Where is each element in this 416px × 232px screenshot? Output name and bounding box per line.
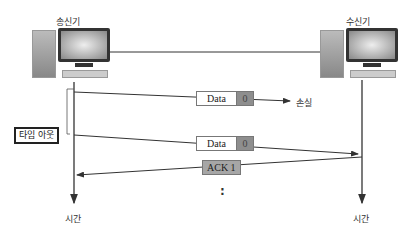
data-packet-resent: Data 0: [196, 136, 254, 151]
timeout-label: 타임 아웃: [14, 127, 59, 144]
ack-packet: ACK 1: [202, 160, 241, 175]
sender-time-label: 시간: [65, 212, 81, 225]
receiver-time-label: 시간: [353, 212, 369, 225]
lost-label: 손실: [296, 96, 312, 109]
sender-computer-icon: [30, 28, 120, 80]
receiver-computer-icon: [318, 28, 408, 80]
sender-label: 송신기: [56, 15, 80, 28]
receiver-label: 수신기: [346, 15, 370, 28]
continuation-dots: :: [220, 184, 225, 198]
data-packet-lost: Data 0: [196, 91, 254, 106]
